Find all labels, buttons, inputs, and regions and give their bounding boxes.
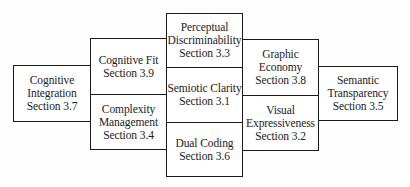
- box-label-line: Expressiveness: [246, 117, 315, 130]
- box-label-line: Cognitive: [30, 74, 74, 87]
- box-semantic-transparency: Semantic Transparency Section 3.5: [318, 66, 398, 121]
- box-section-label: Section 3.3: [179, 47, 230, 60]
- box-perceptual-discriminability: Perceptual Discriminability Section 3.3: [166, 13, 243, 68]
- box-section-label: Section 3.2: [255, 130, 306, 143]
- box-section-label: Section 3.5: [333, 100, 384, 113]
- box-section-label: Section 3.7: [27, 100, 78, 113]
- box-complexity-management: Complexity Management Section 3.4: [90, 94, 167, 150]
- box-graphic-economy: Graphic Economy Section 3.8: [242, 39, 319, 96]
- box-label-line: Management: [99, 116, 158, 129]
- box-label-line: Visual: [266, 104, 295, 117]
- box-label-line: Integration: [27, 87, 76, 100]
- box-label-line: Dual Coding: [176, 137, 234, 150]
- box-label-line: Complexity: [102, 103, 155, 116]
- box-label-line: Semiotic Clarity: [167, 82, 241, 95]
- box-label-line: Graphic: [262, 48, 298, 61]
- box-label-line: Discriminability: [168, 34, 242, 47]
- box-semiotic-clarity: Semiotic Clarity Section 3.1: [166, 67, 243, 123]
- box-label-line: Semantic: [337, 74, 379, 87]
- box-label-line: Cognitive Fit: [99, 54, 159, 67]
- box-dual-coding: Dual Coding Section 3.6: [166, 122, 243, 177]
- box-visual-expressiveness: Visual Expressiveness Section 3.2: [242, 95, 319, 151]
- box-cognitive-fit: Cognitive Fit Section 3.9: [90, 38, 167, 95]
- box-cognitive-integration: Cognitive Integration Section 3.7: [13, 65, 91, 122]
- box-label-line: Perceptual: [181, 21, 229, 34]
- box-label-line: Economy: [259, 61, 302, 74]
- box-section-label: Section 3.1: [179, 95, 230, 108]
- box-section-label: Section 3.4: [103, 129, 154, 142]
- box-section-label: Section 3.6: [179, 150, 230, 163]
- box-section-label: Section 3.8: [255, 74, 306, 87]
- diagram-canvas: Cognitive Integration Section 3.7 Cognit…: [0, 0, 410, 187]
- box-section-label: Section 3.9: [103, 67, 154, 80]
- box-label-line: Transparency: [328, 87, 389, 100]
